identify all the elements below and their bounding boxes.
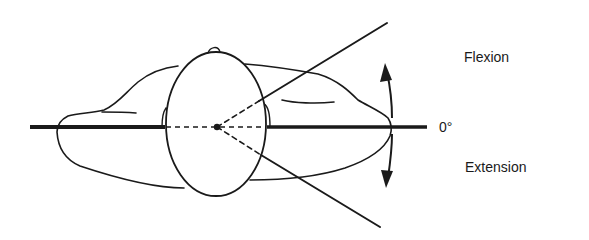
diagram-canvas: Flexion 0° Extension — [0, 0, 589, 240]
extension-label: Extension — [465, 160, 526, 174]
zero-degree-label: 0° — [439, 120, 452, 134]
flexion-label: Flexion — [464, 50, 509, 64]
arrow-down-icon — [381, 170, 393, 188]
arrow-up-icon — [380, 63, 392, 82]
right-body-outline — [245, 64, 391, 180]
